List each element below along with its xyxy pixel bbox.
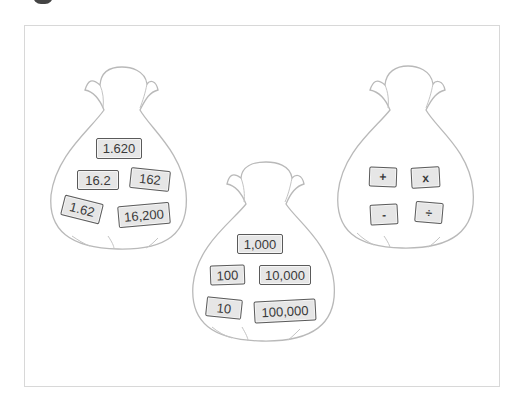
number-card-1000[interactable]: 1,000 xyxy=(237,234,283,254)
number-card-10000[interactable]: 10,000 xyxy=(259,265,311,285)
operation-card-multiply[interactable]: x xyxy=(410,166,440,188)
operation-card-plus[interactable]: + xyxy=(369,167,398,188)
card-label: 10 xyxy=(216,301,232,315)
card-label: 100,000 xyxy=(261,303,309,318)
card-label: 162 xyxy=(139,172,162,187)
divide-icon: ÷ xyxy=(425,206,433,219)
operation-card-divide[interactable]: ÷ xyxy=(414,201,444,224)
number-card-100000[interactable]: 100,000 xyxy=(253,298,316,323)
card-label: 10,000 xyxy=(265,269,305,282)
number-card-1-620[interactable]: 1.620 xyxy=(96,138,142,159)
card-label: 1.62 xyxy=(68,200,96,219)
card-label: 100 xyxy=(216,268,238,282)
card-label: 16.2 xyxy=(85,174,110,187)
multiply-icon: x xyxy=(422,171,429,183)
operation-card-minus[interactable]: - xyxy=(369,203,398,225)
number-card-10[interactable]: 10 xyxy=(205,296,243,320)
plus-icon: + xyxy=(379,171,386,183)
number-card-100[interactable]: 100 xyxy=(210,264,246,285)
number-card-16200[interactable]: 16,200 xyxy=(117,202,171,228)
card-label: 1.620 xyxy=(103,142,136,155)
card-label: 16,200 xyxy=(124,207,165,223)
number-card-162[interactable]: 162 xyxy=(129,167,171,192)
bag-right-icon xyxy=(338,66,474,248)
number-card-16-2[interactable]: 16.2 xyxy=(77,170,119,190)
card-label: 1,000 xyxy=(244,238,277,251)
minus-icon: - xyxy=(382,208,387,220)
